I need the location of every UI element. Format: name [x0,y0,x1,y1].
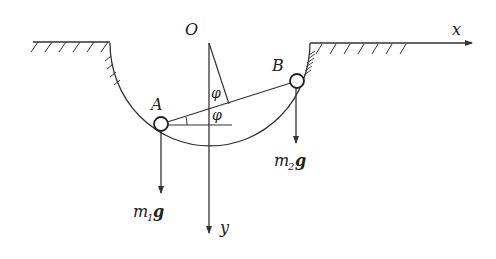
svg-text:2: 2 [287,161,294,172]
label-origin: O [185,20,198,39]
left-wall-hatching [105,56,120,85]
left-ground [31,42,110,52]
rod-ab [161,81,297,124]
mass-b [290,74,304,88]
svg-text:g: g [153,202,164,221]
mass-a [154,117,168,131]
right-ground [316,44,406,54]
label-point-b: B [271,56,284,75]
label-weight-b: m 2 g [274,151,306,172]
svg-text:m: m [274,151,289,170]
svg-text:m: m [133,202,148,221]
label-weight-a: m 1 g [133,202,164,223]
label-x-axis: x [452,20,461,39]
label-point-a: A [149,95,163,114]
diagram-canvas: O x y A B φ φ m 1 g m 2 g [0,0,496,259]
label-angle-lower: φ [212,107,222,123]
svg-text:g: g [295,151,306,170]
mechanics-diagram: O x y A B φ φ m 1 g m 2 g [0,0,496,259]
label-angle-upper: φ [211,85,221,101]
label-y-axis: y [219,218,230,237]
angle-arc-a [186,117,187,125]
